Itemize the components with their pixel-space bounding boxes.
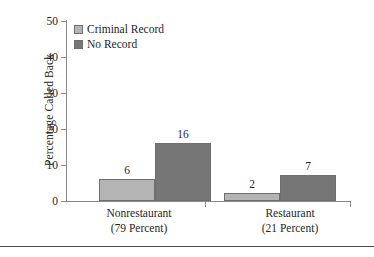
- x-category-label-restaurant: Restaurant (21 Percent): [210, 206, 370, 236]
- bar-restaurant-criminal-record: [224, 193, 280, 201]
- bar-restaurant-no-record: [280, 175, 336, 201]
- x-category-sub-restaurant: (21 Percent): [210, 221, 370, 236]
- y-tick-50: 50: [61, 21, 66, 22]
- bar-label-restaurant-criminal-record: 2: [224, 178, 280, 190]
- y-tick-40: 40: [61, 57, 66, 58]
- bar-nonrestaurant-criminal-record: [99, 179, 155, 201]
- y-tick-0: 0: [61, 201, 66, 202]
- bottom-divider: [0, 246, 374, 247]
- legend-label-criminal-record: Criminal Record: [87, 23, 164, 35]
- bar-label-nonrestaurant-criminal-record: 6: [99, 164, 155, 176]
- y-axis-line: [66, 20, 67, 202]
- legend-item-criminal-record: Criminal Record: [74, 22, 164, 36]
- y-tick-label-10: 10: [32, 157, 58, 173]
- legend-item-no-record: No Record: [74, 37, 164, 51]
- y-tick-label-0: 0: [32, 193, 58, 209]
- legend-swatch-icon-criminal-record: [74, 25, 83, 34]
- legend-label-no-record: No Record: [87, 38, 137, 50]
- y-tick-20: 20: [61, 129, 66, 130]
- x-category-sub-nonrestaurant: (79 Percent): [59, 221, 219, 236]
- bar-chart-figure: Percentage Called Back 0 10 20 30 40 50 …: [0, 0, 374, 257]
- y-tick-label-20: 20: [32, 121, 58, 137]
- x-category-label-nonrestaurant: Nonrestaurant (79 Percent): [59, 206, 219, 236]
- x-axis-line: [66, 201, 351, 202]
- y-tick-label-40: 40: [32, 49, 58, 65]
- bar-nonrestaurant-no-record: [155, 143, 211, 201]
- x-category-name-nonrestaurant: Nonrestaurant: [106, 207, 171, 219]
- y-tick-30: 30: [61, 93, 66, 94]
- bar-label-restaurant-no-record: 7: [280, 160, 336, 172]
- y-axis-title: Percentage Called Back: [43, 15, 55, 205]
- y-tick-label-50: 50: [32, 13, 58, 29]
- y-tick-label-30: 30: [32, 85, 58, 101]
- x-category-name-restaurant: Restaurant: [265, 207, 314, 219]
- bar-label-nonrestaurant-no-record: 16: [155, 128, 211, 140]
- legend-swatch-icon-no-record: [74, 40, 83, 49]
- y-tick-10: 10: [61, 165, 66, 166]
- chart-legend: Criminal Record No Record: [74, 22, 164, 52]
